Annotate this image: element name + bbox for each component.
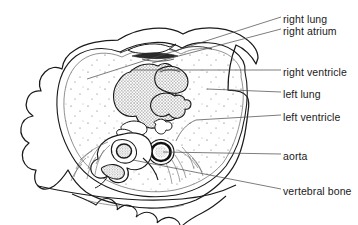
label-left-ventricle: left ventricle [283,111,340,123]
figure-root: right lung right atrium right ventricle … [0,0,358,225]
label-vertebral-bone: vertebral bone [283,185,352,197]
label-left-lung: left lung [283,88,321,100]
label-right-atrium: right atrium [283,25,337,37]
label-right-lung: right lung [283,13,327,25]
label-right-ventricle: right ventricle [283,66,347,78]
label-aorta: aorta [283,150,307,162]
